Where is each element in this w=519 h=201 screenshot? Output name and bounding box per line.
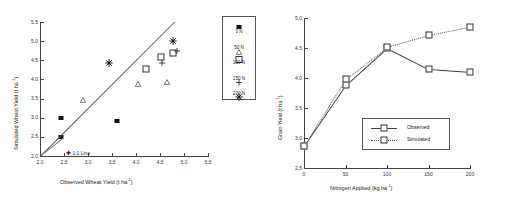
scatter-x-axis bbox=[40, 156, 208, 157]
data-point-simulated bbox=[425, 32, 432, 39]
x-tick-label: 200 bbox=[463, 172, 477, 177]
legend-label-100-N: 100 N bbox=[223, 61, 255, 66]
x-tick-label: 5.0 bbox=[179, 160, 189, 165]
line-y-axis-title: Grain Yield (t ha-1) bbox=[278, 95, 284, 140]
x-tick-label: 5.5 bbox=[203, 160, 213, 165]
y-tick-label: 3.0 bbox=[26, 115, 38, 120]
x-tick bbox=[470, 165, 471, 169]
data-point-simulated bbox=[467, 24, 474, 31]
y-tick bbox=[40, 118, 44, 119]
x-tick-label: 2.0 bbox=[35, 160, 45, 165]
scatter-point-50-n bbox=[80, 89, 86, 95]
legend-label-200-N: 200 N bbox=[223, 92, 255, 97]
data-point-simulated bbox=[301, 142, 308, 149]
legend-marker-simulated bbox=[381, 137, 388, 144]
x-tick-label: 3.0 bbox=[83, 160, 93, 165]
line-x-axis-title: Nitrogen Applied (kg ha-1) bbox=[330, 186, 392, 192]
x-tick bbox=[387, 165, 388, 169]
scatter-panel: 2.02.53.03.54.04.55.05.52.02.53.03.54.04… bbox=[0, 0, 260, 201]
x-tick-label: 4.5 bbox=[155, 160, 165, 165]
y-tick bbox=[40, 137, 44, 138]
y-tick bbox=[304, 18, 308, 19]
y-tick bbox=[40, 41, 44, 42]
scatter-point-50-n bbox=[164, 71, 170, 77]
x-tick-label: 50 bbox=[339, 172, 353, 177]
y-tick-label: 5.0 bbox=[290, 16, 302, 21]
scatter-x-axis-title: Observed Wheat Yield (t ha-1) bbox=[60, 180, 133, 186]
y-tick-label: 5.0 bbox=[26, 39, 38, 44]
data-point-simulated bbox=[384, 44, 391, 51]
y-tick-label: 3.5 bbox=[26, 96, 38, 101]
data-point-observed bbox=[425, 66, 432, 73]
x-tick bbox=[136, 153, 137, 157]
scatter-point-150-n bbox=[158, 53, 165, 60]
data-point-simulated bbox=[342, 76, 349, 83]
x-tick bbox=[429, 165, 430, 169]
scatter-point-0-n bbox=[114, 119, 119, 123]
y-tick bbox=[40, 60, 44, 61]
scatter-plot-area bbox=[40, 22, 208, 156]
x-tick-label: 3.5 bbox=[107, 160, 117, 165]
data-point-observed bbox=[342, 82, 349, 89]
y-tick bbox=[40, 79, 44, 80]
data-point-observed bbox=[467, 69, 474, 76]
x-tick bbox=[112, 153, 113, 157]
legend-label-simulated: Simulated bbox=[407, 137, 430, 142]
two-panel-figure: 2.02.53.03.54.04.55.05.52.02.53.03.54.04… bbox=[0, 0, 519, 201]
scatter-point-50-n bbox=[135, 73, 141, 79]
scatter-point-0-n bbox=[59, 116, 64, 120]
y-tick bbox=[304, 168, 308, 169]
y-tick-label: 3.5 bbox=[290, 106, 302, 111]
line-legend: ObservedSimulated bbox=[362, 118, 450, 150]
x-tick bbox=[184, 153, 185, 157]
y-tick-label: 2.5 bbox=[290, 166, 302, 171]
x-tick-label: 100 bbox=[380, 172, 394, 177]
x-tick-label: 4.0 bbox=[131, 160, 141, 165]
x-tick-label: 150 bbox=[422, 172, 436, 177]
scatter-y-axis-title: Simulated Wheat Yield (t ha-1) bbox=[14, 77, 20, 150]
x-tick-label: 0 bbox=[297, 172, 311, 177]
scatter-point-200-n bbox=[169, 31, 177, 39]
legend-label-0-N: 0 N bbox=[223, 30, 255, 35]
legend-marker-observed bbox=[381, 125, 388, 132]
y-tick-label: 4.0 bbox=[290, 76, 302, 81]
legend-label-150-N: 150 N bbox=[223, 77, 255, 82]
scatter-point-100-n bbox=[143, 66, 150, 73]
x-tick bbox=[346, 165, 347, 169]
y-tick-label: 5.5 bbox=[26, 20, 38, 25]
scatter-point-200-n bbox=[105, 53, 113, 61]
y-tick-label: 4.5 bbox=[290, 46, 302, 51]
y-tick-label: 2.5 bbox=[26, 134, 38, 139]
nitrogen-response-panel: 0501001502002.53.03.54.04.55.0 Nitrogen … bbox=[260, 0, 519, 201]
y-tick-label: 3.0 bbox=[290, 136, 302, 141]
y-tick bbox=[40, 22, 44, 23]
x-tick bbox=[64, 153, 65, 157]
scatter-legend: 0 N50 N100 N150 N200 N bbox=[222, 16, 256, 100]
y-tick-label: 4.0 bbox=[26, 77, 38, 82]
x-tick bbox=[160, 153, 161, 157]
y-tick bbox=[304, 108, 308, 109]
legend-label-50-N: 50 N bbox=[223, 46, 255, 51]
y-tick-label: 4.5 bbox=[26, 58, 38, 63]
x-tick bbox=[208, 153, 209, 157]
x-tick-label: 2.5 bbox=[59, 160, 69, 165]
one-to-one-annotation: ✚ 1:1 Line bbox=[66, 150, 90, 156]
y-tick bbox=[304, 48, 308, 49]
y-tick-label: 2.0 bbox=[26, 154, 38, 159]
y-tick bbox=[304, 78, 308, 79]
legend-label-observed: Observed bbox=[407, 125, 430, 130]
y-tick bbox=[40, 99, 44, 100]
